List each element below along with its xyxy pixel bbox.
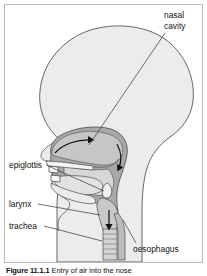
label-larynx: larynx — [9, 199, 32, 209]
figure-container: nasal cavity epiglottis larynx trachea o… — [0, 0, 207, 276]
label-trachea: trachea — [9, 221, 37, 231]
trachea-shape — [103, 229, 117, 260]
figure-caption: Figure 11.1.1 Entry of air into the nose — [6, 265, 204, 276]
label-epiglottis: epiglottis — [9, 160, 42, 170]
figure-caption-number: Figure 11.1.1 — [6, 266, 49, 275]
lower-teeth-shape — [51, 175, 60, 182]
anatomy-diagram-svg: nasal cavity epiglottis larynx trachea o… — [5, 5, 202, 262]
label-nasal-cavity-line1: nasal — [164, 10, 184, 20]
figure-caption-text: Entry of air into the nose — [52, 266, 132, 275]
label-nasal-cavity-line2: cavity — [164, 21, 186, 31]
label-oesophagus: oesophagus — [133, 244, 179, 254]
figure-frame: nasal cavity epiglottis larynx trachea o… — [4, 4, 203, 263]
